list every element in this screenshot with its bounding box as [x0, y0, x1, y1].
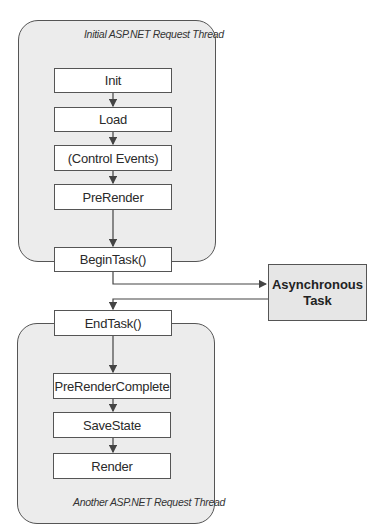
step-load: Load	[54, 107, 172, 132]
step-prerender-complete: PreRenderComplete	[53, 373, 171, 399]
step-init: Init	[54, 68, 172, 93]
step-control-events: (Control Events)	[54, 145, 172, 171]
step-begin-task: BeginTask()	[54, 247, 172, 272]
asynchronous-task-box: Asynchronous Task	[268, 264, 367, 321]
step-prerender: PreRender	[54, 184, 172, 210]
step-save-state: SaveState	[53, 412, 171, 438]
step-end-task: EndTask()	[54, 310, 172, 336]
async-task-line2: Task	[303, 293, 332, 309]
step-render: Render	[53, 453, 171, 479]
async-task-line1: Asynchronous	[272, 277, 363, 293]
